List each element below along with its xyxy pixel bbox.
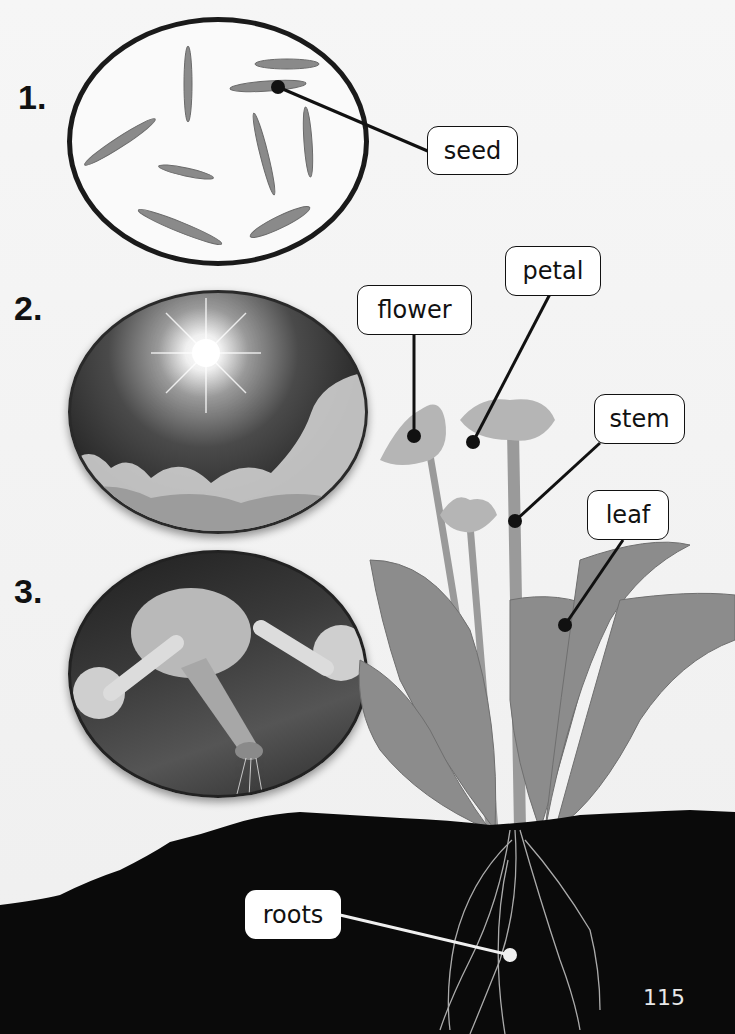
label-roots: roots [245,890,341,939]
label-leaf: leaf [587,490,669,540]
label-seed: seed [427,126,518,175]
label-flower: flower [357,285,472,335]
textbook-page: 1. 2. 3. [0,0,735,1034]
label-petal: petal [505,246,601,296]
label-stem: stem [594,394,685,444]
page-number: 115 [643,985,685,1010]
